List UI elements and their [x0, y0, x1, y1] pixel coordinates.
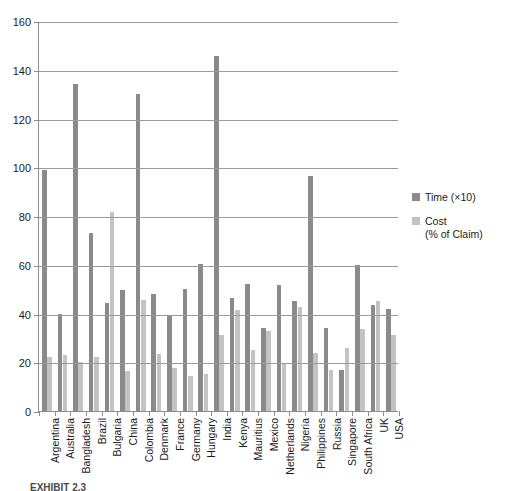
bar-time	[214, 56, 219, 411]
x-axis-category-label: Australia	[65, 418, 76, 459]
y-axis-tick-label: 20	[19, 358, 31, 369]
bar-time	[292, 301, 297, 411]
x-axis-category-label: Bulgaria	[112, 418, 123, 457]
bar-time	[324, 328, 329, 411]
y-axis-tick-label: 120	[13, 114, 31, 125]
bar-cost	[391, 335, 396, 411]
bar-chart-figure: 020406080100120140160 ArgentinaAustralia…	[0, 0, 506, 491]
x-axis-tick	[117, 411, 118, 416]
x-axis-category-label: Singapore	[347, 418, 358, 466]
x-axis-category-label: South Africa	[363, 418, 374, 475]
x-axis-tick	[227, 411, 228, 416]
x-axis-category-label: China	[128, 418, 139, 445]
bar-time	[120, 290, 125, 411]
x-axis-tick	[368, 411, 369, 416]
bar-time	[355, 265, 360, 411]
bar-time	[105, 303, 110, 411]
y-axis-tick	[34, 71, 39, 72]
x-axis-tick	[211, 411, 212, 416]
bar-cost	[235, 310, 240, 411]
chart-legend: Time (×10) Cost (% of Claim)	[412, 191, 506, 252]
bar-time	[198, 264, 203, 411]
bar-cost	[172, 368, 177, 411]
bar-time	[371, 305, 376, 411]
y-axis-tick-label: 140	[13, 65, 31, 76]
bar-time	[58, 314, 63, 412]
bar-time	[151, 294, 156, 411]
bar-time	[339, 370, 344, 411]
bar-cost	[94, 357, 99, 411]
gridline	[39, 22, 398, 23]
y-axis-tick	[34, 120, 39, 121]
x-axis-category-label: USA	[394, 418, 405, 440]
y-axis-tick	[34, 363, 39, 364]
bar-cost	[204, 374, 209, 411]
bar-cost	[329, 370, 334, 411]
x-axis-tick	[383, 411, 384, 416]
bar-cost	[125, 371, 130, 411]
bar-cost	[376, 301, 381, 411]
plot-area: 020406080100120140160	[38, 22, 398, 412]
x-axis-labels: ArgentinaAustraliaBangladeshBrazilBulgar…	[38, 418, 398, 480]
y-axis-tick-label: 0	[25, 407, 31, 418]
bar-cost	[47, 357, 52, 411]
bar-cost	[313, 353, 318, 412]
x-axis-category-label: UK	[379, 418, 390, 433]
bar-cost	[360, 329, 365, 411]
x-axis-category-label: Nigeria	[300, 418, 311, 451]
x-axis-category-label: France	[175, 418, 186, 451]
x-axis-category-label: Netherlands	[285, 418, 296, 475]
x-axis-tick	[305, 411, 306, 416]
x-axis-category-label: Philippines	[316, 418, 327, 469]
bar-time	[73, 84, 78, 411]
y-axis-tick-label: 60	[19, 260, 31, 271]
x-axis-tick	[55, 411, 56, 416]
x-axis-tick	[196, 411, 197, 416]
y-axis-tick-label: 100	[13, 163, 31, 174]
x-axis-category-label: India	[222, 418, 233, 441]
x-axis-category-label: Mexico	[269, 418, 280, 451]
bar-time	[308, 176, 313, 411]
bar-time	[261, 328, 266, 411]
bar-cost	[188, 376, 193, 411]
x-axis-tick	[102, 411, 103, 416]
legend-item-time: Time (×10)	[412, 191, 506, 204]
x-axis-tick	[258, 411, 259, 416]
x-axis-tick	[336, 411, 337, 416]
x-axis-tick	[321, 411, 322, 416]
x-axis-category-label: Hungary	[206, 418, 217, 458]
legend-swatch-time-icon	[412, 193, 420, 201]
x-axis-category-label: Brazil	[97, 418, 108, 444]
legend-label-time: Time (×10)	[425, 191, 506, 204]
gridline	[39, 266, 398, 267]
x-axis-category-label: Kenya	[238, 418, 249, 448]
bar-cost	[282, 363, 287, 411]
bar-time	[183, 289, 188, 411]
y-axis-tick	[34, 266, 39, 267]
y-axis-tick-label: 160	[13, 17, 31, 28]
bar-time	[89, 233, 94, 411]
bar-time	[42, 170, 47, 411]
x-axis-tick	[86, 411, 87, 416]
x-axis-category-label: Mauritius	[253, 418, 264, 461]
gridline	[39, 120, 398, 121]
y-axis-tick	[34, 315, 39, 316]
y-axis-tick	[34, 217, 39, 218]
bar-time	[277, 285, 282, 411]
bar-cost	[219, 335, 224, 411]
gridline	[39, 168, 398, 169]
x-axis-category-label: Germany	[191, 418, 202, 461]
x-axis-tick	[352, 411, 353, 416]
bar-cost	[266, 331, 271, 411]
bar-cost	[78, 362, 83, 411]
gridline	[39, 315, 398, 316]
gridline	[39, 71, 398, 72]
x-axis-tick	[274, 411, 275, 416]
bar-cost	[345, 348, 350, 411]
legend-label-cost: Cost	[425, 215, 506, 228]
legend-item-cost: Cost (% of Claim)	[412, 215, 506, 241]
x-axis-category-label: Denmark	[159, 418, 170, 461]
bar-time	[245, 284, 250, 411]
gridline	[39, 217, 398, 218]
x-axis-tick	[242, 411, 243, 416]
